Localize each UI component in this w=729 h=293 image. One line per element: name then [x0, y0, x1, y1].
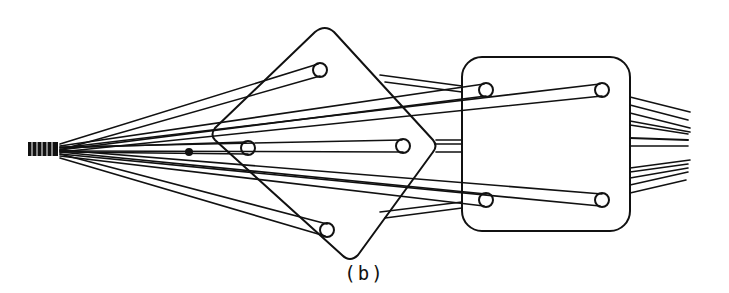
dot-marker [185, 148, 193, 156]
rods [60, 64, 602, 236]
coil-binding [28, 142, 58, 156]
figure-caption: (b) [0, 262, 729, 284]
loose-strand-ends [630, 97, 690, 193]
diagram-canvas [0, 0, 729, 293]
